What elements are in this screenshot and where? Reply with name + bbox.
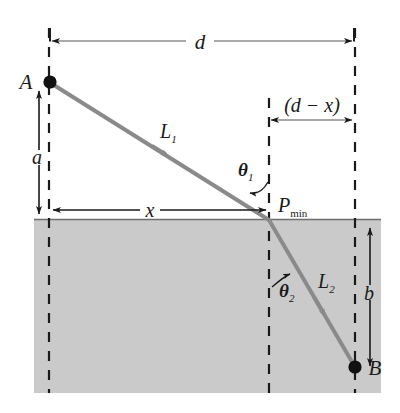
- segment-L2-letter: L: [317, 270, 329, 292]
- dimension-x-label: x: [145, 199, 155, 221]
- angle-theta1-label: θ1: [238, 159, 253, 183]
- angle-theta2-symbol: θ: [279, 280, 289, 301]
- angle-theta1-symbol: θ: [238, 159, 248, 180]
- dimension-d-label: d: [195, 30, 206, 54]
- dimension-b-label: b: [364, 282, 374, 304]
- dimension-d-minus-x-label: (d − x): [284, 94, 340, 117]
- segment-L1-subscript: 1: [171, 133, 177, 145]
- lower-medium-region: [34, 219, 381, 393]
- segment-L2-subscript: 2: [329, 283, 335, 295]
- segment-L1-label: L1: [159, 120, 177, 145]
- point-A-label: A: [18, 70, 33, 94]
- point-B-dot: [348, 360, 361, 373]
- optics-refraction-figure: A B Pmin L1 L2 θ1 θ2 d (d − x) x a b: [0, 0, 400, 413]
- dimension-a-label: a: [32, 146, 42, 168]
- angle-theta1-subscript: 1: [248, 171, 254, 183]
- figure-canvas: A B Pmin L1 L2 θ1 θ2 d (d − x) x a b: [0, 0, 400, 413]
- angle-theta2-subscript: 2: [289, 292, 295, 304]
- angle-theta1-arc: [250, 182, 268, 193]
- point-Pmin-label: Pmin: [277, 194, 308, 219]
- segment-L1-letter: L: [159, 120, 171, 142]
- point-Pmin-letter: P: [277, 194, 290, 216]
- point-Pmin-subscript: min: [290, 207, 308, 219]
- point-A-dot: [43, 75, 56, 88]
- ray-direction-arrow-L1: [152, 146, 166, 155]
- point-B-label: B: [369, 356, 382, 380]
